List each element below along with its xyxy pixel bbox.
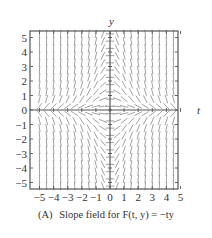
- slope-segment: [151, 117, 154, 125]
- slope-segment: [74, 160, 75, 168]
- slope-segment: [114, 74, 120, 80]
- slope-segment: [145, 160, 146, 168]
- slope-segment: [88, 175, 89, 183]
- slope-segment: [81, 81, 83, 89]
- slope-segment: [159, 153, 160, 161]
- slope-segment: [115, 168, 119, 176]
- slope-segment: [39, 124, 40, 132]
- slope-segment: [159, 59, 160, 67]
- slope-segment: [166, 73, 167, 81]
- slope-segment: [101, 168, 105, 176]
- slope-segment: [46, 138, 47, 146]
- slope-segment: [46, 124, 47, 132]
- slope-segment: [114, 126, 121, 131]
- slope-segment: [39, 80, 40, 88]
- slope-segment: [123, 175, 125, 183]
- slope-segment: [60, 44, 61, 52]
- slope-segment: [88, 146, 90, 154]
- slope-segment: [53, 138, 54, 146]
- figure-caption: (A) Slope field for F(t, y) = −ty: [0, 209, 212, 220]
- slope-segment: [137, 124, 140, 132]
- y-tick-label: 3: [22, 61, 28, 73]
- slope-segment: [60, 59, 61, 67]
- slope-segment: [137, 131, 139, 139]
- slope-segment: [122, 132, 126, 139]
- slope-segment: [138, 153, 139, 161]
- slope-segment: [60, 80, 61, 88]
- x-tick-label: −5: [34, 191, 46, 203]
- slope-segment: [74, 175, 75, 183]
- slope-segment: [138, 175, 139, 183]
- slope-segment: [67, 167, 68, 175]
- slope-segment: [74, 153, 75, 161]
- x-tick-label: −3: [62, 191, 74, 203]
- slope-segment: [74, 88, 77, 96]
- slope-segment: [115, 175, 118, 183]
- slope-segment: [74, 124, 77, 132]
- slope-segment: [81, 66, 82, 74]
- slope-segment: [172, 117, 174, 125]
- slope-segment: [100, 74, 106, 80]
- slope-segment: [73, 95, 77, 102]
- slope-segment: [166, 51, 167, 59]
- slope-segment: [173, 138, 174, 146]
- slope-segment: [100, 82, 106, 88]
- slope-segment: [129, 124, 133, 131]
- slope-segment: [95, 160, 97, 168]
- slope-segment: [145, 138, 146, 146]
- slope-segment: [113, 119, 121, 122]
- slope-segment: [88, 167, 89, 175]
- slope-segment: [122, 139, 125, 147]
- x-tick-label: −4: [48, 191, 60, 203]
- slope-segment: [46, 153, 47, 161]
- slope-segment: [134, 112, 141, 116]
- x-tick-label: 0: [107, 191, 113, 203]
- slope-segment: [121, 118, 128, 123]
- slope-segment: [46, 131, 47, 139]
- slope-segment: [115, 37, 118, 45]
- slope-segment: [166, 138, 167, 146]
- slope-segment: [115, 59, 119, 66]
- slope-segment: [144, 88, 147, 96]
- slope-segment: [123, 66, 126, 74]
- slope-segment: [138, 59, 139, 67]
- slope-segment: [144, 131, 146, 139]
- slope-segment: [115, 154, 119, 161]
- slope-segment: [44, 110, 50, 116]
- y-tick-label: −4: [15, 162, 27, 174]
- slope-segment: [53, 80, 54, 88]
- slope-segment: [87, 124, 91, 131]
- slope-segment: [58, 111, 64, 117]
- slope-segment: [95, 44, 97, 52]
- slope-segment: [123, 44, 125, 52]
- slope-segment: [142, 111, 149, 116]
- slope-segment: [145, 73, 146, 81]
- slope-segment: [123, 146, 126, 154]
- slope-segment: [95, 66, 98, 74]
- slope-segment: [152, 51, 153, 59]
- slope-segment: [93, 97, 100, 102]
- slope-segment: [101, 52, 105, 59]
- slope-segment: [67, 175, 68, 183]
- slope-segment: [95, 168, 97, 176]
- slope-segment: [114, 139, 120, 145]
- slope-segment: [53, 88, 55, 96]
- x-tick-label: 5: [178, 191, 184, 203]
- slope-segment: [95, 146, 98, 154]
- slope-segment: [88, 59, 90, 67]
- slope-segment: [120, 113, 128, 115]
- slope-segment: [122, 125, 127, 132]
- slope-segment: [99, 119, 107, 122]
- slope-segment: [66, 117, 69, 125]
- slope-field-plot: −5−4−3−2−1012345−5−4−3−2−1012345 t y: [0, 0, 212, 205]
- slope-segment: [95, 37, 97, 45]
- slope-segment: [152, 146, 153, 154]
- slope-segment: [166, 66, 167, 74]
- slope-segment: [81, 167, 82, 175]
- y-tick-label: −3: [15, 148, 27, 160]
- y-tick-label: 0: [22, 104, 28, 116]
- t-axis-label: t: [197, 104, 201, 116]
- slope-segment: [166, 146, 167, 154]
- slope-segment: [123, 37, 125, 45]
- slope-segment: [121, 97, 128, 102]
